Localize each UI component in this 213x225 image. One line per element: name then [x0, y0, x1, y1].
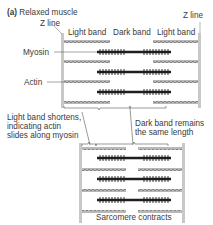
z-line-left — [61, 33, 64, 108]
sarcomere-diagram — [0, 0, 213, 225]
myosin-filaments-relaxed — [97, 49, 171, 95]
z-line-contracted-right — [182, 143, 185, 223]
myosin-filaments-contracted — [97, 155, 171, 203]
z-line-contracted-left — [79, 143, 82, 223]
z-line-right — [198, 33, 201, 108]
